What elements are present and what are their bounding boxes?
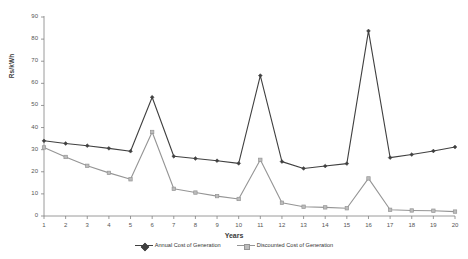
line-chart: Rs/kWh 0102030405060708090 1234567891011… — [0, 0, 468, 259]
x-tick-label: 18 — [404, 222, 420, 228]
y-tick-label: 70 — [18, 57, 38, 63]
x-axis-title: Years — [0, 232, 468, 239]
x-tick-label: 11 — [252, 222, 268, 228]
x-tick-label: 1 — [36, 222, 52, 228]
legend-label: Annual Cost of Generation — [155, 243, 221, 249]
x-tick-label: 13 — [296, 222, 312, 228]
x-tick-label: 8 — [187, 222, 203, 228]
legend-item-1[interactable]: Annual Cost of Generation — [135, 242, 221, 249]
x-tick-label: 20 — [447, 222, 463, 228]
y-tick-label: 10 — [18, 190, 38, 196]
x-tick-label: 4 — [101, 222, 117, 228]
y-tick-label: 40 — [18, 124, 38, 130]
series-discounted-cost-of-generation — [42, 130, 456, 213]
x-tick-label: 9 — [209, 222, 225, 228]
y-tick-label: 50 — [18, 101, 38, 107]
y-tick-label: 0 — [18, 212, 38, 218]
x-tick-label: 12 — [274, 222, 290, 228]
chart-legend: Annual Cost of GenerationDiscounted Cost… — [0, 242, 468, 249]
y-tick-label: 30 — [18, 146, 38, 152]
x-tick-label: 5 — [123, 222, 139, 228]
y-tick-label: 80 — [18, 35, 38, 41]
x-tick-label: 2 — [58, 222, 74, 228]
y-tick-label: 90 — [18, 13, 38, 19]
square-marker-icon — [237, 242, 255, 249]
legend-item-2[interactable]: Discounted Cost of Generation — [237, 242, 334, 249]
plot-area — [0, 0, 468, 259]
x-tick-label: 3 — [79, 222, 95, 228]
series-annual-cost-of-generation — [42, 29, 457, 170]
x-tick-label: 17 — [382, 222, 398, 228]
x-tick-label: 6 — [144, 222, 160, 228]
x-tick-label: 14 — [317, 222, 333, 228]
x-tick-label: 7 — [166, 222, 182, 228]
x-tick-label: 15 — [339, 222, 355, 228]
y-tick-label: 20 — [18, 168, 38, 174]
x-tick-label: 16 — [360, 222, 376, 228]
x-tick-label: 10 — [231, 222, 247, 228]
y-tick-label: 60 — [18, 79, 38, 85]
x-tick-label: 19 — [425, 222, 441, 228]
legend-label: Discounted Cost of Generation — [257, 243, 334, 249]
diamond-marker-icon — [135, 242, 153, 249]
